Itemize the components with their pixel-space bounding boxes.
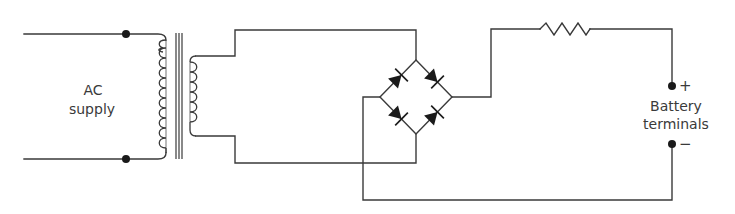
transformer-core: [176, 33, 182, 159]
resistor-to-battery-wire: [590, 29, 672, 86]
ac-bottom-wire: [24, 153, 166, 159]
resistor: [540, 23, 590, 35]
battery-terminals: + − Battery terminals: [643, 77, 709, 153]
negative-return-wire: [363, 97, 672, 200]
terminals-label: terminals: [643, 116, 709, 132]
battery-negative-dot: [668, 140, 676, 148]
battery-label: Battery: [650, 98, 702, 114]
positive-output-wire: [452, 29, 540, 97]
transformer-primary-coil: [159, 40, 166, 153]
bridge-diamond: [380, 60, 452, 134]
battery-positive-dot: [668, 82, 676, 90]
secondary-top-wire: [196, 30, 416, 60]
circuit-diagram: AC supply: [0, 0, 735, 214]
ac-supply-input: AC supply: [24, 30, 166, 163]
ac-top-terminal-dot: [122, 30, 130, 38]
bridge-rectifier: [380, 60, 452, 134]
transformer-secondary-coil: [190, 56, 197, 136]
secondary-bottom-wire: [196, 134, 416, 163]
ac-label: AC: [83, 82, 102, 98]
ac-top-wire: [24, 34, 166, 40]
supply-label: supply: [69, 101, 115, 117]
positive-sign: +: [679, 77, 692, 95]
negative-sign: −: [679, 135, 692, 153]
ac-bottom-terminal-dot: [122, 155, 130, 163]
